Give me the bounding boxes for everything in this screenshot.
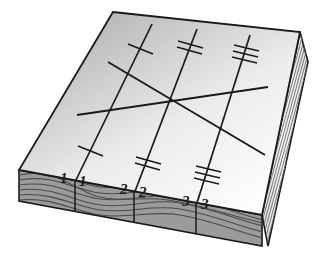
label-2-right: 2 <box>138 184 147 200</box>
label-2-left: 2 <box>119 181 128 197</box>
diagram-canvas: 1 1 2 2 3 3 <box>0 0 320 262</box>
label-1-right: 1 <box>79 173 87 189</box>
label-3-right: 3 <box>200 196 209 212</box>
plywood-panel-illustration: 1 1 2 2 3 3 <box>0 0 320 262</box>
label-1-left: 1 <box>60 170 68 186</box>
label-3-left: 3 <box>181 193 190 209</box>
